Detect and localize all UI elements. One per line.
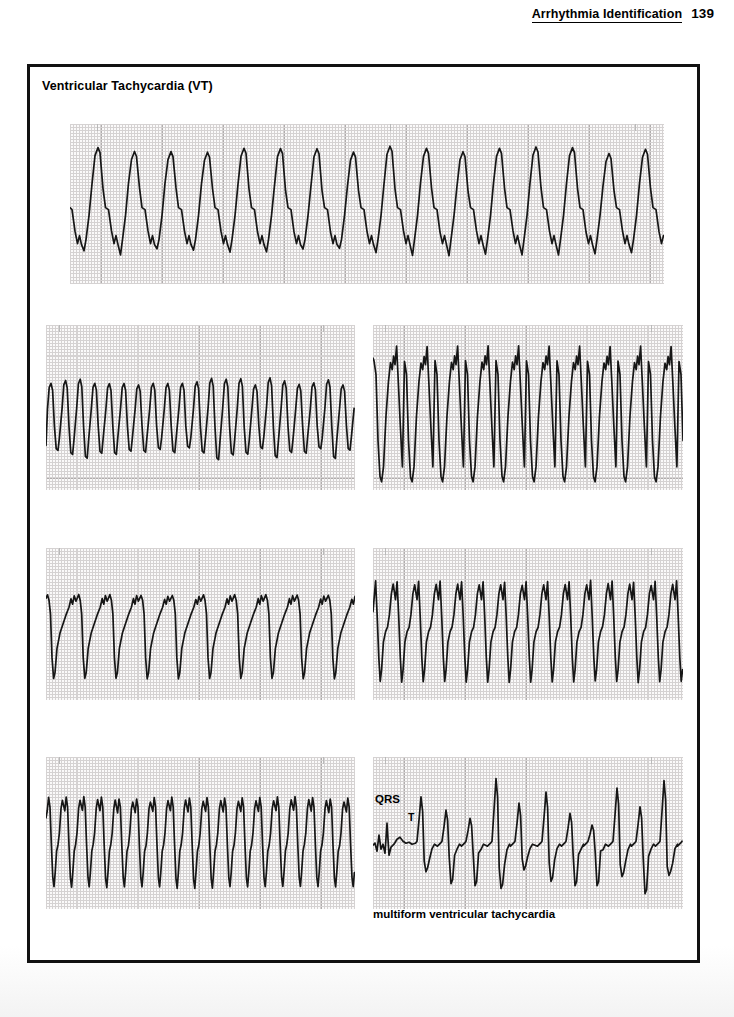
ecg-waveform (373, 325, 683, 490)
strip-caption-multiform-vt: multiform ventricular tachycardia (373, 908, 555, 920)
ecg-strip-2 (46, 325, 355, 490)
ecg-waveform (46, 325, 355, 490)
textbook-page: Arrhythmia Identification139 Ventricular… (0, 0, 734, 1017)
page-title: Ventricular Tachycardia (VT) (42, 79, 213, 93)
ecg-waveform (373, 757, 683, 909)
header-page-number: 139 (691, 6, 714, 21)
ecg-strip-3 (373, 325, 683, 490)
ecg-waveform (46, 548, 355, 700)
running-header: Arrhythmia Identification139 (0, 6, 714, 21)
annotation-qrs-label: QRS (375, 793, 400, 805)
annotation-t-label: T (408, 811, 414, 823)
ecg-strip-6 (46, 757, 355, 909)
ecg-waveform (70, 124, 664, 284)
ecg-waveform (373, 548, 683, 700)
ecg-strip-5 (373, 548, 683, 700)
ecg-strip-7 (373, 757, 683, 909)
ecg-strip-1 (70, 124, 664, 284)
ecg-waveform (46, 757, 355, 909)
ecg-strip-4 (46, 548, 355, 700)
header-section-title: Arrhythmia Identification (532, 7, 682, 23)
